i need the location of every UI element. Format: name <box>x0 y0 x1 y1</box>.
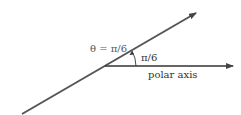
polar-axis-label: polar axis <box>148 70 197 80</box>
ray-angle-label: θ = π/6 <box>90 44 127 54</box>
polar-diagram: θ = π/6 π/6 polar axis <box>0 0 241 115</box>
ray-line <box>22 13 196 114</box>
diagram-svg <box>0 0 241 115</box>
angle-arc-label: π/6 <box>141 53 157 63</box>
